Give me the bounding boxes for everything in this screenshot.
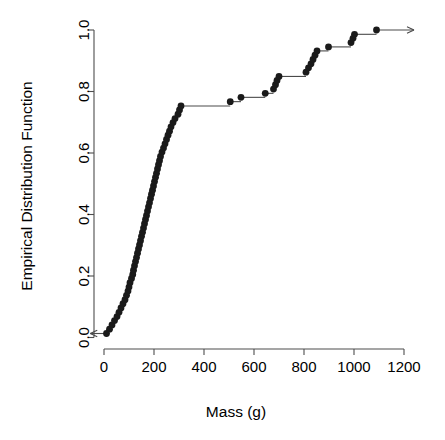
data-point (314, 48, 321, 55)
y-axis-tick-labels: 0.00.20.40.60.81.0 (75, 20, 92, 348)
x-tick-label: 400 (191, 358, 216, 375)
y-axis-title: Empirical Distribution Function (18, 81, 35, 290)
data-point (238, 94, 245, 101)
data-point (351, 31, 358, 38)
data-point (262, 90, 269, 97)
ecdf-step-lines (107, 34, 377, 333)
x-tick-label: 1000 (337, 358, 370, 375)
data-point (178, 103, 185, 110)
data-point (373, 27, 380, 34)
x-tick-label: 0 (100, 358, 108, 375)
y-tick-label: 0.4 (75, 204, 92, 225)
x-axis-title: Mass (g) (206, 403, 266, 420)
x-tick-label: 600 (241, 358, 266, 375)
data-point (276, 73, 283, 80)
ecdf-data-points (103, 27, 380, 337)
data-point (227, 98, 234, 105)
y-axis-ticks (88, 30, 94, 338)
x-axis-tick-labels: 020040060080010001200 (100, 358, 421, 375)
ecdf-tail-arrows (90, 27, 414, 337)
y-tick-label: 1.0 (75, 20, 92, 41)
y-tick-label: 0.6 (75, 143, 92, 164)
y-tick-label: 0.0 (75, 327, 92, 348)
x-tick-label: 800 (291, 358, 316, 375)
x-tick-label: 200 (141, 358, 166, 375)
y-tick-label: 0.8 (75, 81, 92, 102)
x-tick-label: 1200 (387, 358, 420, 375)
chart-canvas: 0.00.20.40.60.81.0 020040060080010001200… (0, 0, 445, 440)
y-tick-label: 0.2 (75, 266, 92, 287)
x-axis-ticks (104, 349, 404, 355)
data-point (325, 44, 332, 51)
ecdf-chart: 0.00.20.40.60.81.0 020040060080010001200… (0, 0, 445, 440)
